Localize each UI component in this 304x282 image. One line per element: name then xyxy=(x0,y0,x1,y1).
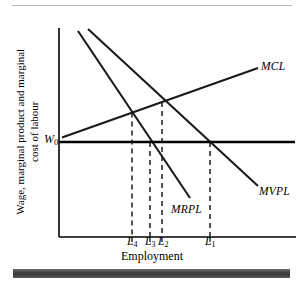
y-axis-title: Wage, marginal product and marginal cost… xyxy=(14,32,42,232)
curve-mcl xyxy=(62,68,258,138)
wage-level-base: W xyxy=(44,132,54,146)
tick-sub-l4: 4 xyxy=(133,240,137,249)
x-tick-label-l2: L2 xyxy=(158,236,168,248)
curve-label-mrpl: MRPL xyxy=(171,204,202,216)
bottom-solid-bar xyxy=(13,269,290,278)
tick-sub-l1: 1 xyxy=(211,240,215,249)
curve-label-mvpl: MVPL xyxy=(259,186,290,198)
curve-mvpl xyxy=(88,29,258,186)
x-axis-title: Employment xyxy=(0,250,304,262)
x-tick-label-l4: L4 xyxy=(127,236,137,248)
tick-sub-l2: 2 xyxy=(164,240,168,249)
wage-level-subscript: 0 xyxy=(54,137,58,147)
economics-figure: MCL MVPL MRPL W0 L4 L3 L2 L1 Employment … xyxy=(0,0,304,282)
y-axis-title-line2: cost of labour xyxy=(28,102,40,162)
y-axis-title-line1: Wage, marginal product and marginal xyxy=(14,49,26,215)
wage-level-label: W0 xyxy=(44,133,58,145)
curve-mrpl xyxy=(78,31,190,198)
curve-label-mcl: MCL xyxy=(261,61,285,73)
x-tick-label-l1: L1 xyxy=(205,236,215,248)
x-tick-label-l3: L3 xyxy=(145,236,155,248)
tick-sub-l3: 3 xyxy=(151,240,155,249)
